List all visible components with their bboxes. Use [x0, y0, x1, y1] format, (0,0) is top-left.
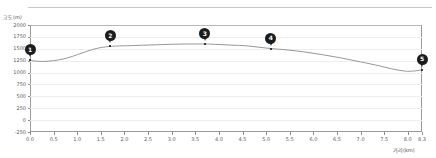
- elevation-profile-widget: 고도(m) 거리(km) 200017501500125010007505002…: [0, 0, 436, 158]
- x-tick-label: 6.0: [304, 137, 322, 142]
- x-tick-label: 2.0: [115, 137, 133, 142]
- y-tick-label: -250: [15, 130, 26, 135]
- waypoint-anchor-dot: [109, 45, 111, 47]
- x-tick-label: 0.5: [45, 137, 63, 142]
- marker-number-label: 2: [105, 30, 116, 41]
- waypoint-anchor-dot: [204, 43, 206, 45]
- x-tick-mark: [54, 132, 55, 135]
- x-tick-mark: [266, 132, 267, 135]
- x-tick-mark: [101, 132, 102, 135]
- x-tick-label: 4.5: [234, 137, 252, 142]
- x-tick-mark: [172, 132, 173, 135]
- y-tick-label: 0: [23, 118, 26, 123]
- x-tick-mark: [124, 132, 125, 135]
- marker-number-label: 1: [25, 44, 36, 55]
- x-tick-label: 3.5: [186, 137, 204, 142]
- x-tick-mark: [243, 132, 244, 135]
- x-tick-label: 7.0: [352, 137, 370, 142]
- waypoint-anchor-dot: [29, 59, 31, 61]
- x-tick-label: 2.5: [139, 137, 157, 142]
- y-tick-label: 1000: [13, 70, 26, 75]
- waypoint-marker-1[interactable]: 1: [25, 44, 36, 59]
- x-tick-mark: [384, 132, 385, 135]
- x-tick-label: 8.3: [413, 137, 431, 142]
- waypoint-marker-3[interactable]: 3: [199, 28, 210, 43]
- x-tick-mark: [290, 132, 291, 135]
- marker-number-label: 4: [265, 33, 276, 44]
- x-tick-mark: [337, 132, 338, 135]
- y-tick-label: 1750: [13, 34, 26, 39]
- x-tick-mark: [361, 132, 362, 135]
- elevation-curve: [30, 25, 422, 132]
- y-axis-title: 고도(m): [3, 13, 22, 20]
- waypoint-marker-5[interactable]: 5: [417, 54, 428, 69]
- plot-area: 200017501500125010007505002500-250 0.00.…: [30, 25, 422, 132]
- x-tick-mark: [408, 132, 409, 135]
- waypoint-anchor-dot: [421, 69, 423, 71]
- x-tick-label: 3.0: [163, 137, 181, 142]
- x-axis-title: 거리(km): [393, 146, 415, 153]
- waypoint-marker-4[interactable]: 4: [265, 33, 276, 48]
- y-tick-label: 500: [16, 94, 26, 99]
- x-tick-mark: [30, 132, 31, 135]
- marker-number-label: 3: [199, 28, 210, 39]
- x-tick-label: 6.5: [328, 137, 346, 142]
- x-tick-label: 1.5: [92, 137, 110, 142]
- x-tick-mark: [195, 132, 196, 135]
- top-divider: [28, 7, 432, 8]
- x-tick-mark: [219, 132, 220, 135]
- marker-number-label: 5: [417, 54, 428, 65]
- x-tick-label: 5.5: [281, 137, 299, 142]
- x-tick-label: 1.0: [68, 137, 86, 142]
- x-tick-mark: [313, 132, 314, 135]
- y-tick-label: 750: [16, 82, 26, 87]
- x-tick-label: 4.0: [210, 137, 228, 142]
- x-tick-mark: [148, 132, 149, 135]
- x-tick-label: 7.5: [375, 137, 393, 142]
- x-tick-mark: [422, 132, 423, 135]
- y-tick-label: 2000: [13, 23, 26, 28]
- x-tick-label: 5.0: [257, 137, 275, 142]
- y-tick-label: 250: [16, 106, 26, 111]
- waypoint-anchor-dot: [270, 48, 272, 50]
- x-tick-mark: [77, 132, 78, 135]
- x-tick-label: 0.0: [21, 137, 39, 142]
- waypoint-marker-2[interactable]: 2: [105, 30, 116, 45]
